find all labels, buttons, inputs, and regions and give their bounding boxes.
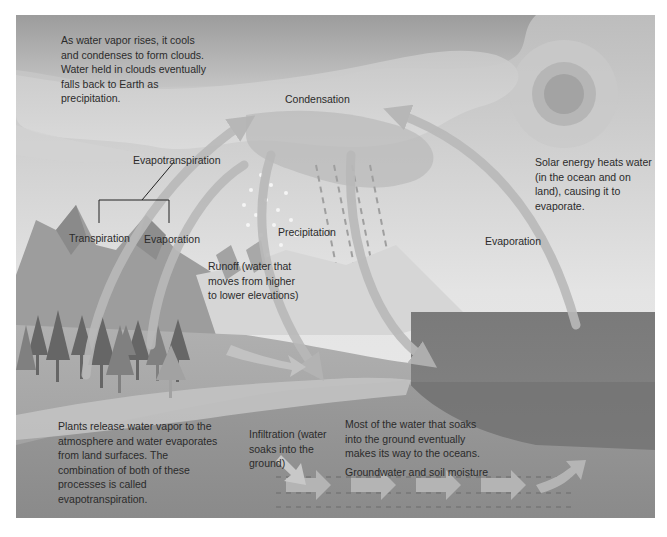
water-cycle-diagram: As water vapor rises, it cools and conde… [16, 15, 655, 518]
evaporation-land-label: Evaporation [144, 232, 200, 247]
clouds-annotation: As water vapor rises, it cools and conde… [61, 33, 211, 106]
evapotranspiration-label: Evapotranspiration [133, 153, 221, 168]
oceans-annotation: Most of the water that soaks into the gr… [345, 417, 480, 461]
groundwater-label: Groundwater and soil moisture [345, 465, 488, 480]
plants-annotation: Plants release water vapor to the atmosp… [58, 419, 218, 506]
sun-icon [510, 40, 618, 148]
infiltration-annotation: Infiltration (water soaks into the groun… [249, 427, 329, 471]
transpiration-label: Transpiration [69, 231, 130, 246]
runoff-annotation: Runoff (water that moves from higher to … [208, 259, 303, 303]
precipitation-label: Precipitation [278, 225, 336, 240]
solar-annotation: Solar energy heats water (in the ocean a… [535, 155, 655, 213]
condensation-label: Condensation [285, 92, 350, 107]
evaporation-ocean-label: Evaporation [485, 234, 541, 249]
